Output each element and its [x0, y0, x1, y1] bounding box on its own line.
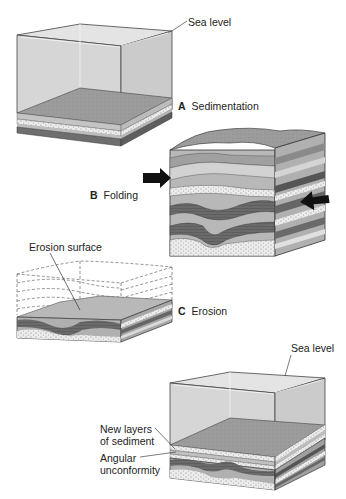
- sea-level-label-bottom: Sea level: [291, 342, 334, 354]
- new-layers-label: New layers of sediment: [100, 423, 154, 447]
- stage-b-name: Folding: [104, 189, 138, 201]
- sea-level-leader-d: [285, 355, 291, 376]
- stage-c-name: Erosion: [192, 305, 228, 317]
- stage-b-label: BFolding: [90, 189, 138, 201]
- angular-line2: unconformity: [100, 464, 160, 476]
- new-layers-line2: of sediment: [100, 435, 154, 447]
- angular-line1: Angular: [100, 452, 160, 464]
- erosion-surface-label: Erosion surface: [29, 241, 102, 253]
- sea-level-leader-a: [172, 21, 187, 31]
- box-b-folding: [143, 128, 330, 256]
- stage-a-label: ASedimentation: [178, 100, 259, 112]
- stage-b-letter: B: [90, 189, 98, 201]
- stage-c-label: CErosion: [178, 305, 227, 317]
- sea-level-label-top: Sea level: [188, 16, 231, 28]
- angular-unconformity-label: Angular unconformity: [100, 452, 160, 476]
- stage-a-name: Sedimentation: [192, 100, 259, 112]
- new-layers-line1: New layers: [100, 423, 154, 435]
- box-d-angular-unconformity: [140, 355, 325, 490]
- stage-a-letter: A: [178, 100, 186, 112]
- box-c-erosion: [17, 253, 172, 342]
- compression-arrow-left-icon: [143, 168, 171, 188]
- box-a-sedimentation: [17, 21, 187, 146]
- stage-c-letter: C: [178, 305, 186, 317]
